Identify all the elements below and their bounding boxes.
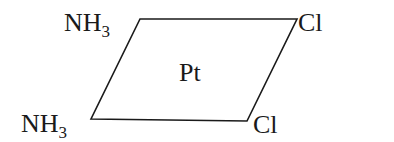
ligand-bottom-right: Cl <box>253 112 278 138</box>
ligand-top-left-base: NH <box>64 8 102 37</box>
ligand-top-left-subscript: 3 <box>102 22 111 41</box>
ligand-bottom-left: NH3 <box>21 111 67 137</box>
ligand-bottom-left-subscript: 3 <box>59 123 68 142</box>
ligand-bottom-left-base: NH <box>21 109 59 138</box>
central-metal-label: Pt <box>179 60 201 86</box>
ligand-top-right: Cl <box>298 10 323 36</box>
ligand-top-left: NH3 <box>64 10 110 36</box>
